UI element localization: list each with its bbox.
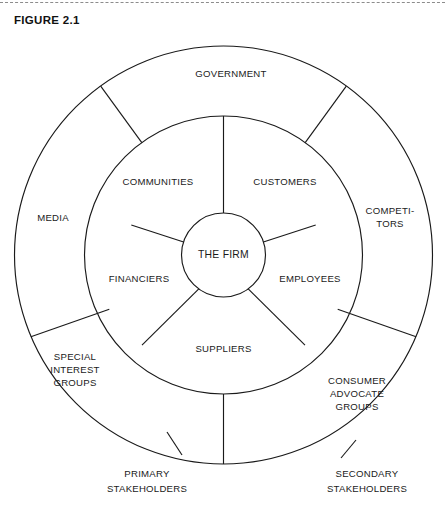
legend-primary-stakeholders: PRIMARY STAKEHOLDERS [107, 468, 187, 494]
outer-label-government: GOVERNMENT [195, 68, 266, 79]
svg-text:GROUPS: GROUPS [335, 401, 378, 412]
inner-label-employees: EMPLOYEES [279, 273, 340, 284]
inner-label-financiers: FINANCIERS [109, 273, 170, 284]
outer-label-media: MEDIA [37, 212, 69, 223]
svg-text:TORS: TORS [376, 218, 403, 229]
legend-secondary-stakeholders: SECONDARY STAKEHOLDERS [327, 468, 407, 494]
svg-text:SPECIAL: SPECIAL [54, 351, 97, 362]
svg-text:PRIMARY: PRIMARY [124, 468, 170, 479]
svg-text:COMPETI-: COMPETI- [366, 205, 415, 216]
svg-text:STAKEHOLDERS: STAKEHOLDERS [107, 483, 187, 494]
svg-text:GROUPS: GROUPS [53, 377, 96, 388]
svg-text:ADVOCATE: ADVOCATE [330, 388, 384, 399]
outer-label-consumer-advocate-groups: CONSUMER ADVOCATE GROUPS [328, 375, 386, 412]
svg-text:SECONDARY: SECONDARY [336, 468, 399, 479]
figure-root: FIGURE 2.1 GOVERNMENT [0, 0, 445, 505]
svg-text:STAKEHOLDERS: STAKEHOLDERS [327, 483, 407, 494]
svg-text:CONSUMER: CONSUMER [328, 375, 386, 386]
outer-label-special-interest-groups: SPECIAL INTEREST GROUPS [50, 351, 99, 388]
inner-label-suppliers: SUPPLIERS [195, 343, 251, 354]
svg-text:INTEREST: INTEREST [50, 364, 99, 375]
center-label-the-firm: THE FIRM [198, 249, 249, 260]
leader-line-secondary [341, 440, 356, 458]
inner-label-customers: CUSTOMERS [253, 176, 316, 187]
inner-label-communities: COMMUNITIES [123, 176, 194, 187]
stakeholder-wheel-diagram: GOVERNMENT COMPETI- TORS CONSUMER ADVOCA… [0, 0, 445, 505]
